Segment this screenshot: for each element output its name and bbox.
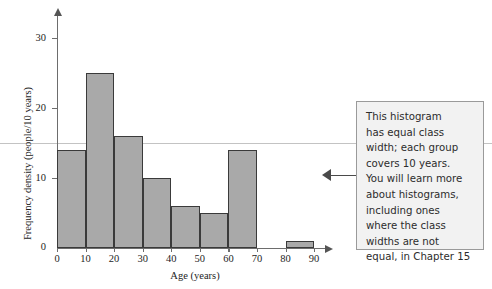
- y-tick-label-30: 30: [26, 33, 46, 43]
- x-tick-90: [314, 248, 315, 252]
- annotation-line-8: where the class: [366, 218, 483, 234]
- annotation-line-10: equal, in Chapter 15: [366, 249, 483, 265]
- x-tick-label-40: 40: [159, 253, 183, 264]
- annotation-callout: This histogram has equal class width; ea…: [356, 101, 484, 250]
- bar-10-20: [86, 73, 115, 248]
- callout-arrow-head: [322, 169, 331, 181]
- bar-20-30: [114, 136, 143, 248]
- x-tick-label-90: 90: [302, 253, 326, 264]
- plot-area: 30 20 10 0 0 10 20 30 40 50 60 70 80 90 …: [0, 0, 340, 289]
- callout-arrow-icon: [322, 169, 356, 182]
- x-tick-label-10: 10: [74, 253, 98, 264]
- y-axis-arrow-icon: [54, 8, 62, 16]
- annotation-line-4: covers 10 years.: [366, 156, 483, 172]
- x-tick-40: [171, 248, 172, 252]
- annotation-line-3: width; each group: [366, 140, 483, 156]
- y-axis-title: Frequency density (people/10 years): [22, 87, 33, 240]
- x-axis-arrow-icon: [325, 245, 333, 253]
- bar-30-40: [143, 178, 172, 248]
- annotation-line-7: including ones: [366, 203, 483, 219]
- annotation-line-1: This histogram: [366, 109, 483, 125]
- x-tick-label-30: 30: [131, 253, 155, 264]
- annotation-line-9: widths are not: [366, 234, 483, 250]
- x-axis-title: Age (years): [110, 270, 280, 281]
- y-tick-label-0: 0: [26, 242, 46, 252]
- bar-0-10: [57, 150, 86, 248]
- x-tick-0: [57, 248, 58, 252]
- x-tick-label-80: 80: [274, 253, 298, 264]
- annotation-line-6: about histograms,: [366, 187, 483, 203]
- x-tick-label-0: 0: [45, 253, 69, 264]
- x-tick-label-50: 50: [188, 253, 212, 264]
- y-tick-30: [52, 38, 58, 39]
- x-tick-20: [114, 248, 115, 252]
- bar-50-60: [200, 213, 229, 248]
- x-tick-label-20: 20: [102, 253, 126, 264]
- x-tick-50: [200, 248, 201, 252]
- bar-60-70: [228, 150, 257, 248]
- x-tick-30: [143, 248, 144, 252]
- y-tick-20: [52, 108, 58, 109]
- bar-80-90: [286, 241, 315, 248]
- x-tick-10: [86, 248, 87, 252]
- callout-arrow-shaft: [330, 175, 356, 177]
- x-tick-label-70: 70: [245, 253, 269, 264]
- x-tick-70: [257, 248, 258, 252]
- x-tick-80: [286, 248, 287, 252]
- histogram-figure: 30 20 10 0 0 10 20 30 40 50 60 70 80 90 …: [0, 0, 492, 289]
- x-tick-60: [228, 248, 229, 252]
- bar-40-50: [171, 206, 200, 248]
- x-tick-label-60: 60: [216, 253, 240, 264]
- annotation-line-2: has equal class: [366, 125, 483, 141]
- annotation-line-5: You will learn more: [366, 171, 483, 187]
